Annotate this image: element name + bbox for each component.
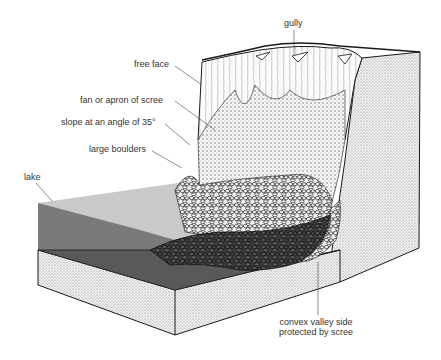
label-large-boulders: large boulders <box>89 144 146 154</box>
label-convex-valley-side: convex valley side protected by scree <box>279 317 353 337</box>
label-free-face: free face <box>134 59 169 69</box>
label-lake: lake <box>24 172 41 182</box>
label-slope-angle: slope at an angle of 35° <box>61 117 156 127</box>
label-gully: gully <box>284 18 303 28</box>
label-fan-or-apron: fan or apron of scree <box>80 95 163 105</box>
label-convex-line2: protected by scree <box>279 327 353 337</box>
label-convex-line1: convex valley side <box>279 317 353 327</box>
scree-block-diagram <box>0 0 441 360</box>
